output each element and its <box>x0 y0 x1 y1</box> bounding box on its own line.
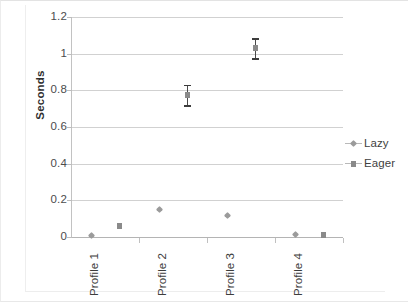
data-point-eager <box>321 232 326 238</box>
y-axis-tick <box>67 237 72 238</box>
x-axis-tick <box>343 238 344 243</box>
y-axis-tick-label: 0 <box>23 231 67 242</box>
error-bar-cap <box>252 38 259 40</box>
x-axis-tick <box>275 238 276 243</box>
data-point-lazy <box>155 205 162 212</box>
legend-item-lazy[interactable]: Lazy <box>345 133 407 153</box>
data-point-eager <box>117 223 122 229</box>
legend-item-eager[interactable]: Eager <box>345 153 407 173</box>
error-bar-cap <box>184 85 191 87</box>
plot-area <box>71 17 343 237</box>
y-axis-title: Seconds <box>34 50 46 140</box>
legend-label: Lazy <box>364 137 389 149</box>
x-axis-tick <box>207 238 208 243</box>
chart-figure: 1.210.80.60.40.20 Seconds Profile 1Profi… <box>0 0 408 302</box>
y-axis-tick-label: 1.2 <box>23 11 67 22</box>
x-axis-tick <box>139 238 140 243</box>
legend-marker-diamond-icon <box>345 138 362 148</box>
legend-label: Eager <box>364 157 395 169</box>
y-axis-tick-labels: 1.210.80.60.40.20 <box>15 1 67 302</box>
chart-legend: LazyEager <box>345 133 407 173</box>
error-bar-cap <box>252 58 259 60</box>
data-point-lazy <box>223 212 230 219</box>
error-bar-cap <box>184 105 191 107</box>
legend-marker-square-icon <box>345 158 362 168</box>
data-point-eager <box>185 92 190 98</box>
data-point-eager <box>253 45 258 51</box>
figure-border-bottom <box>25 291 385 292</box>
y-axis-tick-label: 0.2 <box>23 194 67 205</box>
y-axis-tick-label: 0.4 <box>23 158 67 169</box>
